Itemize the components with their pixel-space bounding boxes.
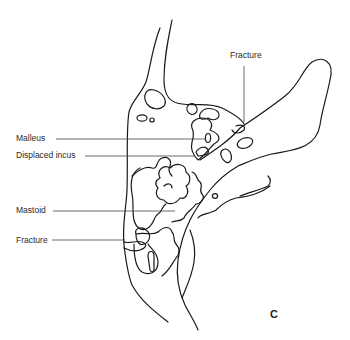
label-malleus: Malleus [16, 134, 45, 143]
label-fracture-bottom: Fracture [16, 236, 48, 245]
label-fracture-top: Fracture [230, 51, 262, 60]
panel-letter: C [270, 308, 278, 320]
label-displaced-incus: Displaced incus [16, 151, 76, 160]
temporal-bone-diagram: Fracture Malleus Displaced incus Mastoid… [0, 0, 350, 340]
anatomical-drawing [0, 0, 350, 340]
label-mastoid: Mastoid [16, 206, 46, 215]
